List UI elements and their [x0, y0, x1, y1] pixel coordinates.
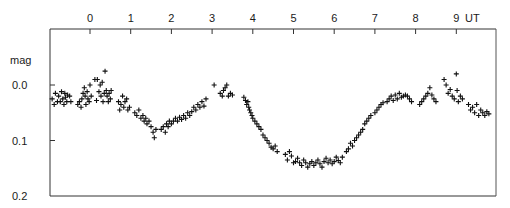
light-curve-chart: 0123456789 0.00.10.2 UT mag: [0, 0, 510, 208]
plus-marker: [201, 104, 206, 109]
plus-marker: [283, 152, 288, 157]
plus-marker: [53, 91, 58, 96]
x-tick-label: 4: [250, 12, 256, 24]
x-tick-label: 3: [209, 12, 215, 24]
plus-marker: [98, 94, 103, 99]
plus-marker: [275, 149, 280, 154]
x-tick-label: 5: [290, 12, 296, 24]
plus-marker: [199, 99, 204, 104]
y-axis-label: mag: [10, 54, 31, 66]
plus-marker: [442, 77, 447, 82]
x-tick-label: 6: [331, 12, 337, 24]
plus-marker: [52, 102, 57, 107]
plus-marker: [474, 102, 479, 107]
plus-marker: [94, 98, 99, 103]
x-tick-label: 0: [87, 12, 93, 24]
plus-marker: [118, 102, 123, 107]
plus-marker: [95, 77, 100, 82]
plus-marker: [103, 69, 108, 74]
plus-marker: [121, 105, 126, 110]
plus-marker: [101, 99, 106, 104]
plus-marker: [79, 105, 84, 110]
plus-marker: [340, 155, 345, 160]
plot-frame: [50, 29, 496, 196]
plus-marker: [289, 154, 294, 159]
plus-marker: [203, 96, 208, 101]
plus-marker: [149, 124, 154, 129]
plus-marker: [58, 99, 63, 104]
plus-marker: [136, 107, 141, 112]
plus-marker: [444, 83, 449, 88]
plus-marker: [454, 71, 459, 76]
plus-marker: [476, 113, 481, 118]
plus-marker: [89, 94, 94, 99]
plus-marker: [455, 88, 460, 93]
plus-marker: [466, 102, 471, 107]
plus-marker: [472, 110, 477, 115]
chart-svg: 0123456789 0.00.10.2 UT mag: [0, 0, 510, 208]
plus-marker: [96, 89, 101, 94]
data-points: [50, 69, 492, 170]
y-tick-label: 0.2: [12, 190, 27, 202]
y-tick-label: 0.1: [12, 135, 27, 147]
plus-marker: [212, 83, 217, 88]
plus-marker: [287, 149, 292, 154]
plus-marker: [456, 99, 461, 104]
plus-marker: [116, 99, 121, 104]
plus-marker: [68, 99, 73, 104]
y-axis-ticks: 0.00.10.2: [12, 79, 55, 202]
plus-marker: [61, 102, 66, 107]
x-axis-ticks: 0123456789: [87, 12, 459, 34]
plus-marker: [79, 96, 84, 101]
plus-marker: [152, 135, 157, 140]
x-tick-label: 8: [413, 12, 419, 24]
x-tick-label: 2: [168, 12, 174, 24]
x-tick-label: 9: [453, 12, 459, 24]
plus-marker: [285, 157, 290, 162]
plus-marker: [117, 107, 122, 112]
plus-marker: [427, 85, 432, 90]
x-axis-label: UT: [465, 12, 480, 24]
plus-marker: [163, 130, 168, 135]
y-tick-label: 0.0: [12, 79, 27, 91]
plus-marker: [56, 94, 61, 99]
x-tick-label: 1: [128, 12, 134, 24]
plus-marker: [120, 94, 125, 99]
plus-marker: [82, 85, 87, 90]
plus-marker: [88, 83, 93, 88]
plus-marker: [153, 127, 158, 132]
plus-marker: [83, 102, 88, 107]
x-tick-label: 7: [372, 12, 378, 24]
plus-marker: [151, 130, 156, 135]
